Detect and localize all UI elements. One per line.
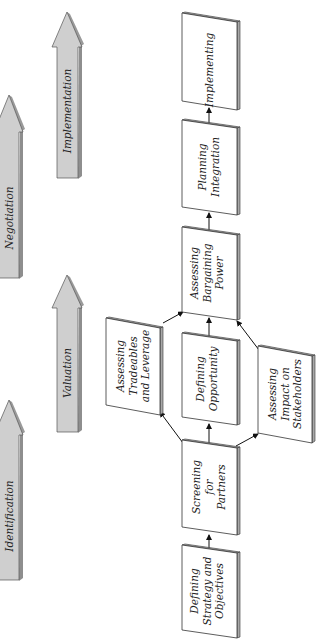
box-label-implementing: Implementing xyxy=(182,27,236,113)
box-label-screening-partners: Screening for Partners xyxy=(182,444,236,530)
phase-label-identification: Identification xyxy=(1,476,17,556)
box-label-defining-opportunity: Defining Opportunity xyxy=(180,338,234,420)
box-label-assessing-impact: Assessing Impact on Stakeholders xyxy=(258,351,312,437)
box-label-assessing-tradeables: Assessing Tradeables and Leverage xyxy=(106,323,160,409)
box-label-planning-integration: Planning Integration xyxy=(182,124,236,210)
phase-label-negotiation: Negotiation xyxy=(1,178,17,258)
connector-screening-to-impact xyxy=(236,434,258,446)
phase-label-implementation: Implementation xyxy=(59,71,75,151)
box-label-defining-strategy: Defining Strategy and Objectives xyxy=(180,550,234,632)
process-diagram: Implementation Negotiation Valuation Ide… xyxy=(0,0,329,639)
box-label-assessing-bargaining: Assessing Bargaining Power xyxy=(180,232,234,314)
phase-label-valuation: Valuation xyxy=(59,333,75,413)
diagram-graphics xyxy=(0,0,329,639)
